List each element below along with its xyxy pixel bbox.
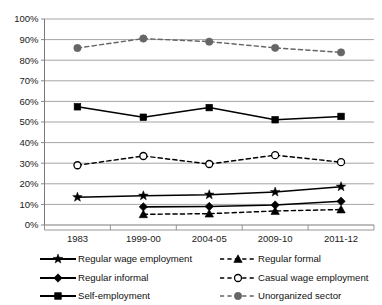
legend-marker [38,252,78,266]
data-point-marker [234,293,241,300]
y-axis-tick-label: 40% [19,137,39,148]
data-point-marker [53,254,63,263]
x-axis-tick-label: 1983 [67,233,88,244]
legend-marker [218,252,258,266]
data-point-marker [74,44,81,51]
data-point-marker [206,104,213,111]
x-axis-tick-label: 1999-00 [126,233,161,244]
y-axis-tick-label: 50% [19,116,39,127]
data-point-marker [73,192,83,201]
data-point-marker [206,161,213,168]
x-axis-tick-label: 2009-10 [258,233,293,244]
legend-column-right: Regular formalCasual wage employmentUnor… [218,250,368,305]
data-point-marker [74,162,81,169]
x-axis-tick-label: 2011-12 [324,233,358,244]
data-point-marker [55,293,62,300]
legend-item-label: Casual wage employment [258,273,368,283]
y-axis-tick-label: 20% [19,178,39,189]
y-axis-tick-label: 90% [19,34,39,45]
data-point-marker [206,38,213,45]
y-axis-tick-label: 100% [14,13,39,24]
series-line [143,210,341,215]
data-point-marker [271,44,278,51]
legend-item-label: Regular informal [78,273,148,283]
line-chart: 0%10%20%30%40%50%60%70%80%90%100%1983199… [0,0,382,305]
data-point-marker [272,116,279,123]
legend-item-label: Regular wage employment [78,254,192,264]
data-point-marker [272,152,279,159]
data-point-marker [139,191,149,200]
data-point-marker [204,190,214,199]
y-axis-tick-label: 0% [25,219,39,230]
data-point-marker [337,49,344,56]
legend-item[interactable]: Regular wage employment [38,250,192,269]
y-axis-tick-label: 10% [19,199,39,210]
data-point-marker [270,187,280,196]
legend-item-label: Unorganized sector [258,291,341,301]
chart-plot-area: 0%10%20%30%40%50%60%70%80%90%100%1983199… [0,0,382,250]
legend-marker [218,271,258,285]
data-point-marker [140,152,147,159]
legend-column-left: Regular wage employmentRegular informalS… [38,250,192,305]
y-axis-tick-label: 30% [19,158,39,169]
legend-item[interactable]: Regular formal [218,250,368,269]
legend-item-label: Self-employment [78,291,150,301]
x-axis-tick-label: 2004-05 [192,233,227,244]
data-point-marker [338,113,345,120]
legend-marker [38,271,78,285]
data-point-marker [140,114,147,121]
series-casual-wage-employment [74,152,345,169]
series-unorganized-sector [74,35,345,56]
legend-item[interactable]: Self-employment [38,287,192,305]
legend-item[interactable]: Unorganized sector [218,287,368,305]
y-axis-tick-label: 60% [19,96,39,107]
chart-legend: Regular wage employmentRegular informalS… [0,250,382,305]
data-point-marker [338,159,345,166]
legend-item[interactable]: Regular informal [38,269,192,288]
data-point-marker [140,35,147,42]
y-axis-tick-label: 70% [19,75,39,86]
series-regular-wage-employment [73,182,346,202]
series-self-employment [74,103,344,123]
data-point-marker [54,274,62,282]
legend-item-label: Regular formal [258,254,321,264]
data-point-marker [235,274,242,281]
legend-marker [218,289,258,303]
legend-marker [38,289,78,303]
y-axis-tick-label: 80% [19,55,39,66]
data-point-marker [74,103,81,110]
data-point-marker [336,182,346,191]
legend-item[interactable]: Casual wage employment [218,269,368,288]
